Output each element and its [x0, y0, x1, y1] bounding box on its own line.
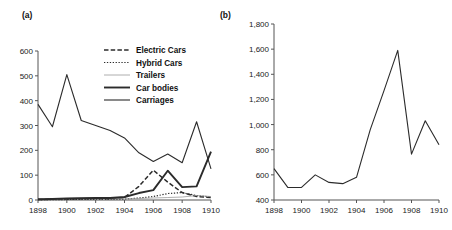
x-axis-tick-label: 1898	[265, 206, 283, 215]
y-axis-tick-label: 100	[20, 171, 34, 180]
legend-label: Car bodies	[136, 84, 179, 93]
line-chart-a: 0100200300400500600189819001902190419061…	[0, 0, 226, 230]
y-axis-tick-label: 400	[20, 97, 34, 106]
y-axis-tick-label: 1,600	[249, 45, 270, 54]
line-chart-b: 4006008001,0001,2001,4001,6001,800189819…	[226, 0, 452, 230]
y-axis-tick-label: 1,800	[249, 20, 270, 29]
x-axis-tick-label: 1908	[173, 206, 191, 215]
x-axis-tick-label: 1904	[116, 206, 134, 215]
x-axis-tick-label: 1906	[375, 206, 393, 215]
series-line	[38, 170, 211, 199]
series-line	[274, 50, 439, 187]
x-axis-tick-label: 1900	[58, 206, 76, 215]
y-axis-tick-label: 1,200	[249, 95, 270, 104]
y-axis-tick-label: 600	[20, 47, 34, 56]
y-axis-tick-label: 1,000	[249, 121, 270, 130]
legend-label: Hybrid Cars	[136, 59, 183, 68]
x-axis-tick-label: 1908	[403, 206, 421, 215]
y-axis-tick-label: 200	[20, 146, 34, 155]
chart-panel-b: (b) 4006008001,0001,2001,4001,6001,80018…	[226, 0, 452, 230]
y-axis-tick-label: 0	[29, 196, 34, 205]
y-axis-tick-label: 1,400	[249, 70, 270, 79]
legend-label: Trailers	[136, 71, 166, 80]
x-axis-tick-label: 1902	[87, 206, 105, 215]
y-axis-tick-label: 400	[256, 196, 270, 205]
y-axis-tick-label: 500	[20, 72, 34, 81]
x-axis-tick-label: 1900	[293, 206, 311, 215]
y-axis-tick-label: 300	[20, 122, 34, 131]
y-axis-tick-label: 600	[256, 171, 270, 180]
x-axis-tick-label: 1898	[29, 206, 47, 215]
chart-panel-a: (a) 010020030040050060018981900190219041…	[0, 0, 226, 230]
legend-label: Carriages	[136, 96, 174, 105]
series-line	[38, 152, 211, 200]
y-axis-tick-label: 800	[256, 146, 270, 155]
x-axis-tick-label: 1910	[202, 206, 220, 215]
x-axis-tick-label: 1910	[430, 206, 448, 215]
x-axis-tick-label: 1902	[320, 206, 338, 215]
x-axis-tick-label: 1904	[348, 206, 366, 215]
legend-label: Electric Cars	[136, 46, 187, 55]
x-axis-tick-label: 1906	[144, 206, 162, 215]
series-line	[38, 75, 211, 169]
